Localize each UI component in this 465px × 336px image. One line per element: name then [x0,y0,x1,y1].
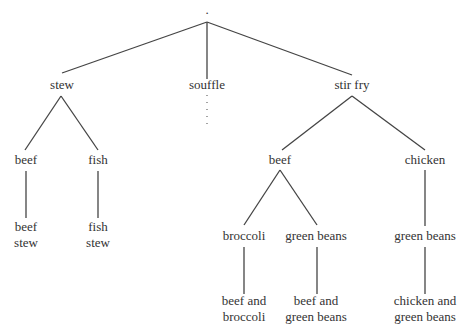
leaf-beef-stew-line2: stew [14,235,38,250]
leaf-beef-stew-line1: beef [15,219,38,234]
leaf-beef-broccoli-line2: broccoli [223,309,266,324]
edge-stew-beef [25,96,61,150]
leaf-chicken-green-beans-line1: chicken and [394,293,457,308]
leaf-beef-green-beans-line1: beef and [294,293,339,308]
node-stir-fry-chicken: chicken [405,152,446,167]
edge-stew-fish [61,96,98,150]
node-souffle: souffle [189,77,225,92]
leaf-beef-green-beans-line2: green beans [285,309,347,324]
edge-stir-fry-beef [282,96,352,150]
node-broccoli: broccoli [223,228,266,243]
root-node: . [205,2,208,17]
tree-labels: . stew souffle stir fry beef fish beef s… [14,2,457,324]
edge-beef-green-beans [280,170,317,225]
leaf-fish-stew-line2: stew [86,235,110,250]
leaf-chicken-green-beans-line2: green beans [394,309,456,324]
edge-root-stew [62,22,207,73]
node-stew-beef: beef [15,152,38,167]
node-stir-fry: stir fry [334,77,370,92]
leaf-fish-stew-line1: fish [88,219,108,234]
tree-edges [25,22,425,294]
node-stew: stew [50,77,74,92]
node-stir-fry-beef: beef [269,152,292,167]
leaf-beef-broccoli-line1: beef and [222,293,267,308]
edge-beef-broccoli [244,170,280,225]
node-beef-green-beans: green beans [285,228,347,243]
node-chicken-green-beans: green beans [394,228,456,243]
edge-stir-fry-chicken [352,96,425,150]
node-stew-fish: fish [88,152,108,167]
edge-root-stir-fry [207,22,352,75]
recipe-tree-diagram: . stew souffle stir fry beef fish beef s… [0,0,465,336]
